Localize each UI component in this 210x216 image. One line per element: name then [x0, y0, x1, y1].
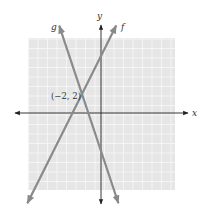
coordinate-plane: y x g f (−2, 2) — [0, 0, 210, 216]
line-f-label: f — [120, 22, 126, 32]
y-axis-label: y — [96, 11, 103, 21]
x-axis-label: x — [192, 108, 197, 118]
intersection-label: (−2, 2) — [51, 91, 81, 101]
grid-background — [28, 38, 175, 190]
line-g-label: g — [51, 22, 57, 32]
